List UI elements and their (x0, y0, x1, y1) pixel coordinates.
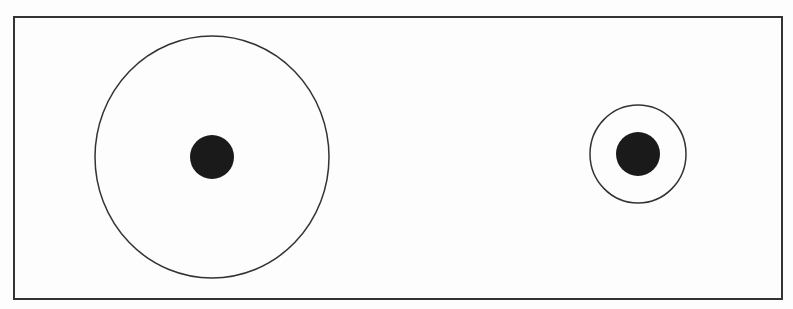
diagram-canvas (0, 0, 793, 309)
frame-border (14, 17, 782, 299)
small-center-dot (616, 132, 660, 176)
large-center-dot (190, 135, 234, 179)
